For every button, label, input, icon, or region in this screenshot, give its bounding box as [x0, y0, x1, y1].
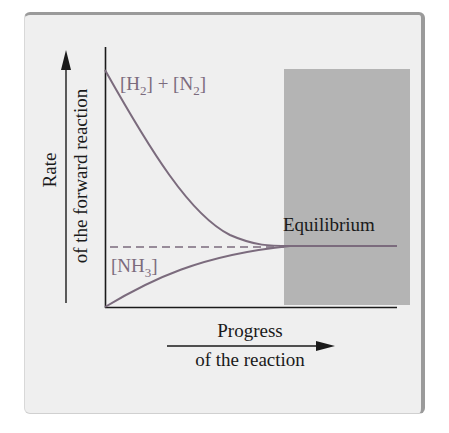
- equilibrium-label: Equilibrium: [283, 214, 375, 235]
- reactants-label: [H2] + [N2]: [120, 73, 206, 98]
- y-label-arrow-head-icon: [61, 50, 71, 70]
- x-label-line2: of the reaction: [195, 349, 305, 370]
- x-label-arrow-head-icon: [316, 341, 335, 351]
- x-label-line1: Progress: [217, 320, 282, 341]
- product-label: [NH3]: [111, 255, 158, 280]
- rate-diagram: [H2] + [N2] [NH3] Equilibrium Rate of th…: [0, 0, 449, 433]
- y-label-line1: Rate: [39, 153, 60, 188]
- y-label-line2: of the forward reaction: [70, 88, 91, 263]
- equilibrium-region: [284, 69, 410, 305]
